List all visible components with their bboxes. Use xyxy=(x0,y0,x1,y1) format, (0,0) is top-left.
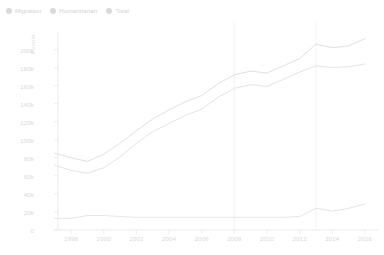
chart-canvas xyxy=(0,0,384,255)
series-line-humanitarian xyxy=(55,204,365,218)
series-line-total xyxy=(55,39,365,162)
axis-lines xyxy=(54,32,378,234)
chart-root: Migration Humanitarian Total People 020k… xyxy=(0,0,384,255)
reference-marker-lines xyxy=(234,22,316,230)
series-line-migration xyxy=(55,64,365,173)
series-lines xyxy=(55,39,365,219)
